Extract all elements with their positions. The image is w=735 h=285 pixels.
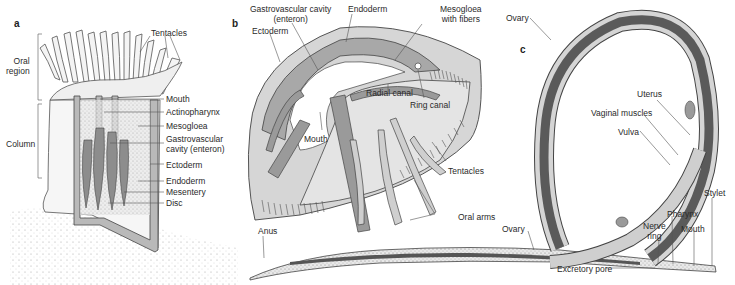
label-mouth-a: Mouth bbox=[166, 94, 190, 104]
label-uterus: Uterus bbox=[637, 89, 662, 99]
label-radial-canal: Radial canal bbox=[366, 88, 413, 98]
label-mesogloea-fibers: Mesogloea with fibers bbox=[440, 4, 482, 24]
label-excretory-pore: Excretory pore bbox=[557, 264, 612, 274]
label-mesentery: Mesentery bbox=[166, 187, 206, 197]
label-ring-canal: Ring canal bbox=[410, 100, 450, 110]
label-tentacles-b: Tentacles bbox=[448, 166, 484, 176]
label-nerve-ring: Nerve ring bbox=[643, 221, 666, 241]
panel-label-c: c bbox=[520, 44, 526, 55]
panel-label-a: a bbox=[14, 18, 20, 29]
label-pharynx: Pharynx bbox=[667, 209, 698, 219]
label-endoderm-a: Endoderm bbox=[166, 176, 205, 186]
label-column: Column bbox=[6, 139, 35, 149]
label-oral-region: Oral region bbox=[6, 56, 30, 76]
label-vulva: Vulva bbox=[618, 127, 639, 137]
diagram-artwork bbox=[0, 0, 735, 285]
label-actinopharynx: Actinopharynx bbox=[166, 107, 220, 117]
label-mouth-b: Mouth bbox=[304, 134, 328, 144]
anemone-drawing bbox=[10, 30, 238, 285]
label-ectoderm-a: Ectoderm bbox=[166, 160, 202, 170]
label-ectoderm-b: Ectoderm bbox=[252, 26, 288, 36]
label-gastrovascular-a: Gastrovascular cavity (enteron) bbox=[166, 134, 225, 154]
label-ovary-top: Ovary bbox=[506, 13, 529, 23]
label-gastrovascular-b: Gastrovascular cavity (enteron) bbox=[250, 4, 331, 24]
label-vaginal-muscles: Vaginal muscles bbox=[591, 108, 652, 118]
label-anus: Anus bbox=[258, 226, 277, 236]
jellyfish-drawing bbox=[248, 14, 481, 232]
label-stylet: Stylet bbox=[704, 188, 725, 198]
label-oral-arms: Oral arms bbox=[458, 212, 495, 222]
label-tentacles-a: Tentacles bbox=[151, 28, 187, 38]
label-mesogloea-a: Mesogloea bbox=[166, 121, 208, 131]
label-disc: Disc bbox=[166, 198, 183, 208]
panel-label-b: b bbox=[232, 18, 238, 29]
biology-figure: a b c Oral region Column Tentacles Mouth… bbox=[0, 0, 735, 285]
label-ovary-bottom: Ovary bbox=[502, 224, 525, 234]
label-endoderm-b: Endoderm bbox=[348, 4, 387, 14]
label-mouth-c: Mouth bbox=[681, 224, 705, 234]
